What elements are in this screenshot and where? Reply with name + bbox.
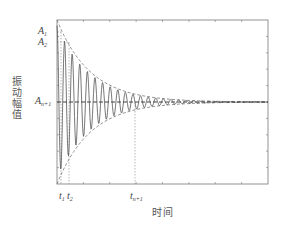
- x-axis-title: 时间: [152, 204, 174, 219]
- oscillation-curve: [57, 26, 268, 169]
- x-label-t2: t2: [67, 191, 73, 202]
- y-label-An1: An+1: [35, 96, 51, 107]
- lower-envelope: [57, 102, 268, 184]
- x-label-tn1: tn+1: [130, 191, 143, 202]
- guide-lines: [57, 32, 135, 184]
- x-label-t1: t1: [59, 191, 65, 202]
- y-label-A2: A2: [38, 37, 47, 48]
- y-axis-title: 振动幅值: [8, 76, 23, 120]
